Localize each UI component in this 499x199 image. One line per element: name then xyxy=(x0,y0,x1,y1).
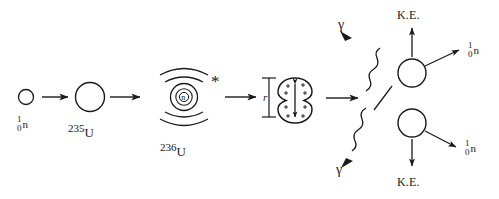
scission-line xyxy=(374,86,392,110)
vibration-arc-lower-outer xyxy=(160,119,208,126)
deformation-distance-label: r xyxy=(263,92,267,103)
bottom-fragment-circle xyxy=(398,109,426,137)
bottom-neutron-numbers: 1 0 xyxy=(465,139,470,157)
incident-neutron-numbers: 1 0 xyxy=(17,115,22,133)
u236-label: 236U xyxy=(160,142,186,158)
top-neutron-arrow xyxy=(425,50,459,66)
u235-symbol: U xyxy=(85,125,94,140)
vibration-arc-upper-outer xyxy=(160,69,208,76)
vibration-arc-upper-inner xyxy=(165,77,203,82)
top-gamma-wave xyxy=(366,48,380,91)
top-gamma-arrowhead xyxy=(340,31,352,41)
bottom-fragment-group xyxy=(341,108,456,168)
top-fragment-group xyxy=(340,28,459,91)
u236-symbol: U xyxy=(177,144,186,159)
excitation-asterisk: * xyxy=(211,73,220,90)
bottom-gamma-arrowhead xyxy=(341,158,353,168)
u235-label: 235U xyxy=(68,123,94,139)
bottom-neutron-arrow xyxy=(425,131,456,147)
incident-neutron-circle xyxy=(19,90,34,105)
incident-neutron-symbol: n xyxy=(23,118,29,130)
incident-neutron-label: 1 0 n xyxy=(17,115,28,133)
top-kinetic-energy-label: K.E. xyxy=(397,9,420,21)
u235-mass-number: 235 xyxy=(68,122,85,134)
top-gamma-label: γ xyxy=(338,18,344,32)
u236-mass-number: 236 xyxy=(160,141,177,153)
bottom-neutron-label: 1 0 n xyxy=(465,139,476,157)
bottom-kinetic-energy-label: K.E. xyxy=(397,176,420,188)
u235-nucleus-circle xyxy=(76,83,105,112)
fission-diagram-svg xyxy=(0,0,499,199)
top-neutron-label: 1 0 n xyxy=(468,41,479,59)
top-fragment-circle xyxy=(398,59,426,87)
bottom-gamma-wave xyxy=(352,108,366,151)
bottom-gamma-label: γ xyxy=(336,163,342,177)
top-neutron-symbol: n xyxy=(474,44,480,56)
fission-diagram-canvas: 1 0 n 235U n * 236U r γ K.E. 1 0 n γ K.E… xyxy=(0,0,499,199)
vibration-arc-lower-inner xyxy=(165,112,203,117)
top-neutron-numbers: 1 0 xyxy=(468,41,473,59)
incident-neutron-group xyxy=(19,90,34,105)
deformed-nucleus-group xyxy=(262,78,312,123)
u236-inner-neutron-label: n xyxy=(181,94,185,102)
bottom-neutron-symbol: n xyxy=(471,142,477,154)
